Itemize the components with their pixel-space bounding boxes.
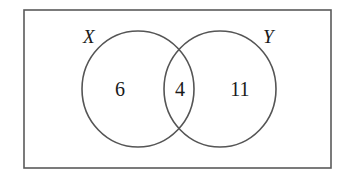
set-y-label: Y — [263, 26, 276, 47]
region-y-only-value: 11 — [230, 78, 249, 100]
set-x-label: X — [82, 26, 96, 47]
region-x-only-value: 6 — [115, 78, 125, 100]
region-intersection-value: 4 — [175, 78, 185, 100]
venn-diagram: X Y 6 4 11 — [0, 0, 345, 177]
